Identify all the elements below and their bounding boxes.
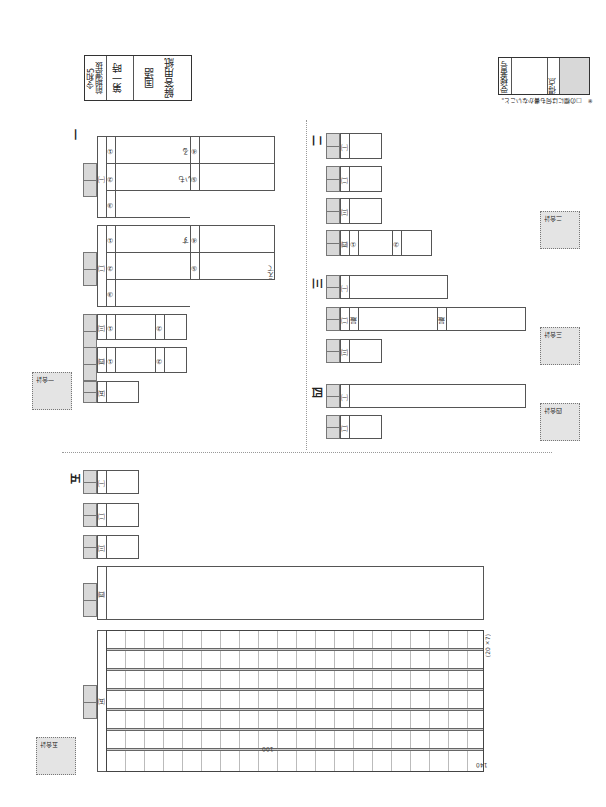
score-box	[83, 535, 97, 559]
sub-label: ②	[107, 264, 113, 271]
score-box	[83, 252, 97, 286]
q-label: ㈢	[98, 324, 105, 331]
start-label: 最	[350, 316, 357, 323]
suffix-label: えて	[264, 264, 274, 278]
q-label: ㈣	[98, 590, 105, 597]
exam-type: 前期選抜	[96, 58, 105, 98]
sheet-title: 解答用紙	[163, 58, 177, 98]
answer-area-3-2[interactable]: ㈡ 最 最	[340, 307, 526, 331]
examinee-box: 受検番号 得点	[498, 57, 590, 95]
sub-label: ⑤	[191, 175, 197, 182]
answer-area-1-3[interactable]: ㈢ ① ②	[97, 314, 187, 340]
section-divider-vertical	[306, 120, 307, 450]
answer-area-1-5[interactable]: ㈤	[97, 381, 139, 403]
sub-label: ④	[191, 147, 197, 154]
answer-area-2-1[interactable]: ㈠	[340, 133, 382, 159]
suffix-label: いも	[178, 175, 192, 182]
sub-label: ①	[107, 236, 113, 243]
total-label: 三合計	[544, 331, 562, 340]
score-label: 得点	[548, 60, 558, 94]
sub-label: ③	[107, 290, 113, 297]
note-text: ※ □の欄には何も書かないこと。	[498, 97, 593, 106]
q-label: ㈢	[341, 208, 348, 215]
grid-marker-100: 100	[262, 746, 273, 753]
exam-subject: 国語	[143, 58, 157, 98]
sub-label: ①	[107, 357, 113, 364]
score-box	[83, 685, 97, 719]
sub-label: ③	[107, 201, 113, 208]
suffix-label: す	[182, 236, 189, 243]
sub-label: ①	[107, 324, 113, 331]
exam-info-box: 令和5 前期選抜 第一時 国語 解答用紙	[84, 55, 192, 101]
q-label: ㈠	[98, 479, 105, 486]
section-3-total-box: 三合計	[540, 327, 580, 365]
section-5-label: 五	[68, 473, 84, 484]
q-label: ㈡	[341, 424, 348, 431]
score-box	[83, 503, 97, 527]
answer-area-1-4[interactable]: ㈣ ① ②	[97, 347, 187, 373]
score-box	[83, 163, 97, 197]
answer-area-2-4[interactable]: ㈣ ① ②	[340, 230, 432, 256]
score-box	[83, 347, 97, 381]
q-label: ㈣	[98, 357, 105, 364]
score-field	[560, 58, 589, 94]
answer-area-2-3[interactable]: ㈢	[340, 198, 382, 224]
section-4-total-box: 四合計	[540, 403, 580, 441]
q-label: ㈡	[98, 264, 105, 271]
q-label: ㈢	[341, 348, 348, 355]
sub-label: ①	[350, 240, 356, 247]
total-label: 四合計	[544, 407, 562, 416]
section-5-total-box: 五合計	[36, 737, 76, 775]
q-label: ㈣	[341, 240, 348, 247]
total-label: 五合計	[40, 741, 58, 750]
q-label: ㈠	[341, 143, 348, 150]
q-label: ㈤	[98, 389, 105, 396]
q-label: ㈤	[98, 697, 105, 704]
examinee-number-label: 受検番号	[500, 60, 510, 94]
total-label: 一合計	[36, 376, 54, 385]
section-1-label: 一	[68, 129, 84, 140]
answer-area-5-3[interactable]: ㈢	[97, 535, 139, 559]
score-box	[326, 198, 340, 224]
score-box	[83, 470, 97, 494]
section-2-label: 二	[310, 135, 326, 146]
section-3-label: 三	[310, 278, 326, 289]
q-label: ㈠	[341, 393, 348, 400]
score-box	[326, 384, 340, 408]
answer-area-3-3[interactable]: ㈢	[340, 339, 382, 363]
q-label: ㈡	[341, 176, 348, 183]
answer-area-5-4[interactable]: ㈣	[97, 566, 484, 620]
answer-area-5-2[interactable]: ㈡	[97, 503, 139, 527]
score-box	[326, 339, 340, 363]
q-label: ㈠	[341, 284, 348, 291]
grid-marker-140: 140	[476, 762, 487, 769]
sub-label: ④	[191, 236, 197, 243]
sub-label: ②	[107, 175, 113, 182]
manuscript-grid-20x7[interactable]	[106, 630, 484, 772]
score-box	[326, 307, 340, 331]
grid-size-label: (20×7)	[484, 634, 491, 657]
suffix-label: る	[182, 147, 189, 154]
answer-area-4-1[interactable]: ㈠	[340, 384, 526, 408]
section-1-total-box: 一合計	[32, 372, 72, 410]
exam-period: 第一時	[111, 58, 125, 98]
q-label: ㈠	[98, 175, 105, 182]
answer-area-3-1[interactable]: ㈠	[340, 275, 448, 299]
q-label: ㈢	[98, 544, 105, 551]
sub-label: ②	[156, 357, 162, 364]
sub-label: ⑤	[191, 264, 197, 271]
answer-area-5-1[interactable]: ㈠	[97, 470, 139, 494]
score-box	[83, 381, 97, 403]
score-box	[326, 275, 340, 299]
answer-area-4-2[interactable]: ㈡	[340, 415, 382, 439]
section-divider-horizontal	[62, 452, 552, 453]
answer-area-1-2[interactable]: ㈡ ① ② ③ す えて ④ ⑤	[97, 225, 275, 307]
section-4-label: 四	[310, 387, 326, 398]
answer-area-2-2[interactable]: ㈡	[340, 166, 382, 192]
sub-label: ②	[156, 324, 162, 331]
score-box	[83, 583, 97, 617]
answer-area-1-1[interactable]: ㈠ ① ② ③ る いも ④ ⑤	[97, 136, 275, 218]
q-label: ㈡	[98, 512, 105, 519]
examinee-number-field[interactable]	[512, 58, 546, 94]
sub-label: ①	[107, 147, 113, 154]
